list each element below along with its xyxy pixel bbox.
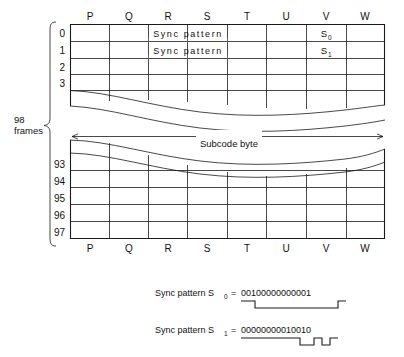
upper-col-header-R: R [164,11,171,22]
marker-s1: S 1 [321,45,332,58]
sync-pattern-s0-legend: Sync pattern S 0 = 00100000000001 [155,288,346,308]
upper-col-header-Q: Q [125,11,133,22]
upper-row-label-3: 3 [59,78,65,89]
lower-row-labels: 93 94 95 96 97 [54,159,66,238]
upper-row-label-1: 1 [59,45,65,56]
lower-table-grid [70,140,385,239]
upper-column-headers: P Q R S T U V W [87,11,371,22]
sync-s1-equals: = [231,325,236,335]
lower-col-header-T: T [244,243,250,254]
frames-unit-label: frames [14,125,43,136]
lower-row-label-97: 97 [54,227,66,238]
upper-table-grid [70,24,385,131]
sync-s0-bits: 00100000000001 [241,288,311,298]
lower-col-header-W: W [360,243,370,254]
frames-count-label: 98 [14,114,25,125]
sync-pattern-s1-legend: Sync pattern S 1 = 00000000010010 [155,325,338,345]
subcode-byte-label: Subcode byte [200,138,258,149]
lower-col-header-Q: Q [125,243,133,254]
upper-col-header-W: W [360,11,370,22]
diagram-root: P Q R S T U V W 0 1 2 3 Sync pattern Syn… [0,0,404,357]
lower-col-header-S: S [204,243,211,254]
upper-row-labels: 0 1 2 3 [59,28,65,89]
marker-s1-subscript: 1 [328,51,332,58]
sync-s1-bits: 00000000010010 [241,325,311,335]
sync-pattern-cell-row0: Sync pattern [153,29,223,39]
sync-s0-equals: = [231,288,236,298]
diagram-canvas: P Q R S T U V W 0 1 2 3 Sync pattern Syn… [0,0,404,357]
sync-pattern-cell-row1: Sync pattern [153,46,223,56]
marker-s0: S 0 [321,28,332,41]
upper-col-header-P: P [87,11,94,22]
sync-s0-label-prefix: Sync pattern S [155,288,214,298]
lower-row-label-93: 93 [54,159,66,170]
upper-row-label-0: 0 [59,28,65,39]
upper-col-header-T: T [244,11,250,22]
lower-row-label-95: 95 [54,193,66,204]
upper-col-header-V: V [323,11,330,22]
sync-s1-label-subscript: 1 [224,330,228,337]
marker-s0-base: S [321,28,327,39]
sync-s1-label-prefix: Sync pattern S [155,325,214,335]
lower-col-header-R: R [164,243,171,254]
marker-s1-base: S [321,45,327,56]
lower-column-headers: P Q R S T U V W [87,243,371,254]
upper-col-header-U: U [282,11,289,22]
upper-col-header-S: S [204,11,211,22]
upper-row-label-2: 2 [59,62,65,73]
sync-s0-label-subscript: 0 [224,293,228,300]
lower-col-header-V: V [323,243,330,254]
lower-row-label-96: 96 [54,210,66,221]
lower-row-label-94: 94 [54,176,66,187]
lower-col-header-P: P [87,243,94,254]
marker-s0-subscript: 0 [328,34,332,41]
lower-col-header-U: U [282,243,289,254]
